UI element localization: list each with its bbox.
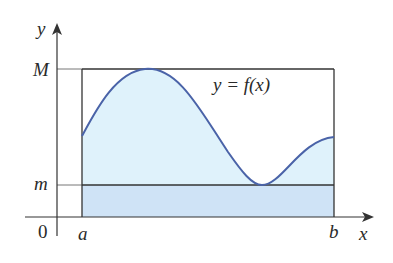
origin-label: 0	[38, 222, 48, 241]
lower-bound-label: m	[34, 174, 48, 193]
upper-bound-label: M	[33, 60, 49, 79]
interval-right-label: b	[329, 222, 339, 241]
interval-left-label: a	[78, 224, 88, 243]
x-axis-label: x	[359, 224, 367, 243]
figure: y M m 0 a b x y = f(x)	[0, 0, 393, 263]
lower-rectangle	[82, 185, 334, 217]
y-axis-label: y	[37, 19, 45, 38]
curve-label: y = f(x)	[213, 75, 270, 94]
